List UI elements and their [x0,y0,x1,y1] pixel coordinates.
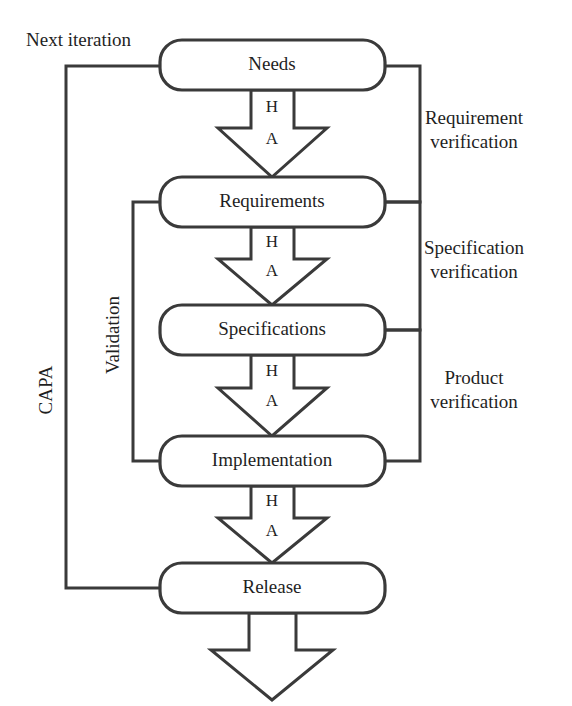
specification-verification-label-line2: verification [430,261,518,282]
flow-arrow-lower-label-3: A [266,391,279,410]
flow-arrow-upper-label-3: H [266,361,278,380]
box-needs[interactable]: Needs [160,40,385,90]
flow-arrow-upper-label-2: H [266,232,278,251]
flow-arrow-implementation-to-release: H A [218,486,327,563]
box-requirements-label: Requirements [219,190,325,211]
product-verification-label-line1: Product [444,367,504,388]
requirement-verification-label-line2: verification [430,131,518,152]
flow-arrow-upper-label-4: H [266,491,278,510]
validation-label: Validation [102,295,123,374]
flow-arrow-lower-label-4: A [266,521,279,540]
box-specifications[interactable]: Specifications [160,305,385,355]
next-iteration-label: Next iteration [26,29,131,50]
requirement-verification-label-line1: Requirement [425,107,524,128]
capa-label: CAPA [35,365,56,414]
specification-verification-label-line1: Specification [424,237,525,258]
flow-arrow-lower-label-1: A [266,129,279,148]
box-implementation-label: Implementation [212,449,333,470]
process-flow-diagram: Next iteration CAPA Validation Requireme… [0,0,572,706]
box-needs-label: Needs [248,53,295,74]
box-implementation[interactable]: Implementation [160,436,385,486]
flow-arrow-needs-to-requirements: H A [218,90,327,177]
box-requirements[interactable]: Requirements [160,177,385,227]
product-verification-label-line2: verification [430,391,518,412]
box-release-label: Release [242,576,301,597]
flow-arrow-release-output [211,613,333,700]
flow-arrow-upper-label-1: H [266,97,278,116]
box-release[interactable]: Release [160,563,385,613]
flow-arrow-specifications-to-implementation: H A [218,355,327,436]
flow-arrow-lower-label-2: A [266,261,279,280]
box-specifications-label: Specifications [218,318,326,339]
flow-arrow-requirements-to-specifications: H A [218,227,327,305]
